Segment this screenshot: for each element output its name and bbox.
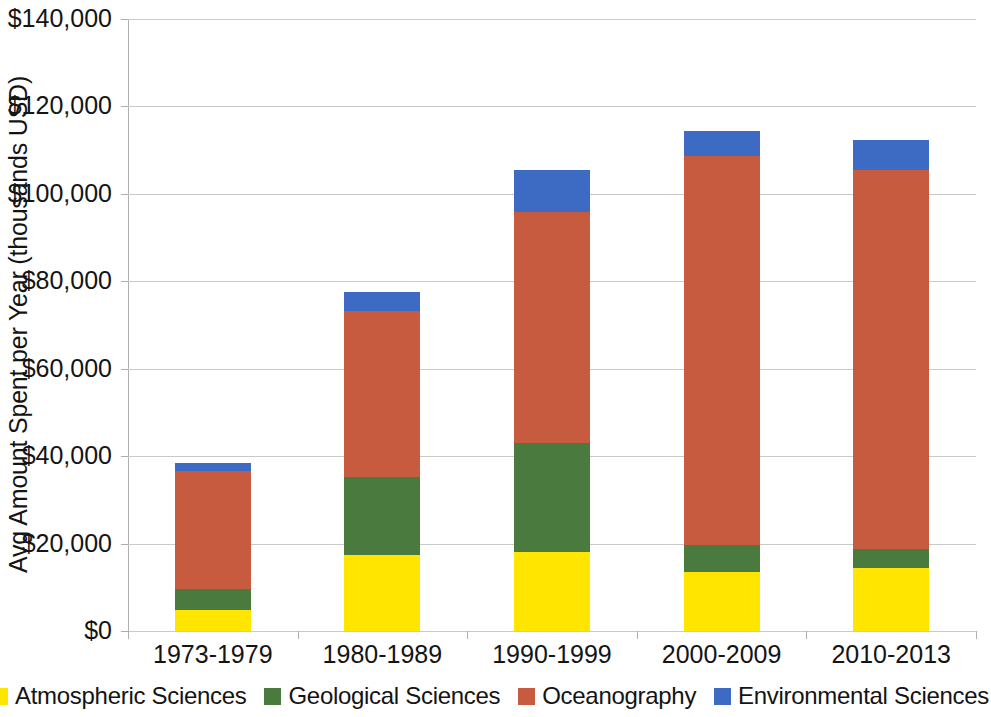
x-tick-mark	[467, 631, 468, 639]
legend-swatch-icon	[0, 688, 8, 705]
bar-segment-oceanography[interactable]	[684, 156, 760, 545]
bar-segment-geological[interactable]	[853, 549, 929, 568]
y-tick-mark	[121, 281, 128, 282]
legend-label: Oceanography	[542, 682, 696, 710]
legend-swatch-icon	[714, 688, 731, 705]
bar-segment-geological[interactable]	[514, 443, 590, 552]
bar-segment-geological[interactable]	[344, 477, 420, 555]
y-tick-mark	[121, 106, 128, 107]
bar-segment-geological[interactable]	[175, 589, 251, 610]
y-tick-label: $20,000	[0, 531, 112, 556]
x-tick-mark	[806, 631, 807, 639]
chart-legend: Atmospheric SciencesGeological SciencesO…	[0, 682, 980, 710]
y-tick-label: $40,000	[0, 443, 112, 468]
bar-segment-geological[interactable]	[684, 545, 760, 572]
y-axis-line	[128, 19, 129, 631]
x-tick-mark	[128, 631, 129, 639]
y-tick-mark	[121, 456, 128, 457]
bar-segment-environmental[interactable]	[175, 463, 251, 471]
y-tick-label: $60,000	[0, 356, 112, 381]
legend-label: Atmospheric Sciences	[15, 682, 246, 710]
bar-segment-oceanography[interactable]	[344, 311, 420, 477]
x-tick-mark	[298, 631, 299, 639]
y-tick-label: $100,000	[0, 181, 112, 206]
legend-item[interactable]: Geological Sciences	[264, 682, 500, 710]
y-tick-label: $140,000	[0, 6, 112, 31]
gridline	[128, 106, 976, 107]
y-tick-label: $0	[0, 618, 112, 643]
x-tick-label: 2010-2013	[791, 640, 991, 668]
bar-segment-atmospheric[interactable]	[175, 610, 251, 631]
bar-segment-atmospheric[interactable]	[853, 568, 929, 631]
legend-label: Environmental Sciences	[738, 682, 989, 710]
x-tick-mark	[637, 631, 638, 639]
legend-swatch-icon	[518, 688, 535, 705]
bar-segment-environmental[interactable]	[344, 292, 420, 310]
y-tick-label: $80,000	[0, 268, 112, 293]
y-tick-label: $120,000	[0, 93, 112, 118]
y-tick-mark	[121, 369, 128, 370]
gridline	[128, 631, 976, 632]
bar-segment-environmental[interactable]	[853, 140, 929, 171]
bar-segment-atmospheric[interactable]	[344, 555, 420, 631]
y-tick-mark	[121, 544, 128, 545]
bar-segment-atmospheric[interactable]	[684, 572, 760, 631]
gridline	[128, 19, 976, 20]
bar-segment-oceanography[interactable]	[175, 471, 251, 589]
y-tick-mark	[121, 19, 128, 20]
y-tick-mark	[121, 194, 128, 195]
bar-segment-environmental[interactable]	[684, 131, 760, 156]
x-tick-mark	[976, 631, 977, 639]
legend-swatch-icon	[264, 688, 281, 705]
bar-segment-oceanography[interactable]	[514, 212, 590, 443]
bar-segment-environmental[interactable]	[514, 170, 590, 212]
bar-segment-oceanography[interactable]	[853, 170, 929, 549]
plot-area: $0$20,000$40,000$60,000$80,000$100,000$1…	[128, 19, 976, 631]
bar-segment-atmospheric[interactable]	[514, 552, 590, 631]
y-tick-mark	[121, 631, 128, 632]
legend-item[interactable]: Oceanography	[518, 682, 696, 710]
legend-label: Geological Sciences	[288, 682, 500, 710]
legend-item[interactable]: Environmental Sciences	[714, 682, 989, 710]
legend-item[interactable]: Atmospheric Sciences	[0, 682, 246, 710]
